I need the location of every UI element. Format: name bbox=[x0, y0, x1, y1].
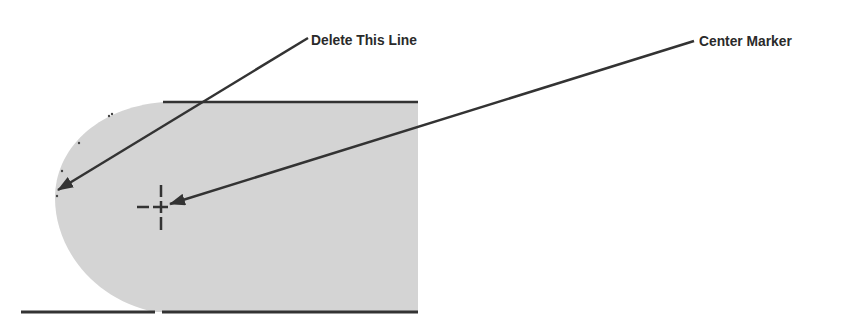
callout-label-center-marker: Center Marker bbox=[699, 32, 792, 49]
callout-label-delete-line: Delete This Line bbox=[311, 31, 417, 48]
slot-shape bbox=[55, 102, 418, 312]
diagram-canvas bbox=[0, 0, 848, 336]
